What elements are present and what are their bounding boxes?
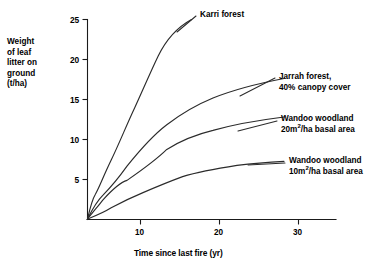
y-tick-label-15: 15 [62, 95, 79, 105]
series-label-jarrah-forest: Jarrah forest, 40% canopy cover [279, 72, 350, 93]
x-tick-label-30: 30 [293, 228, 302, 238]
leader-karri [177, 16, 196, 32]
series-label-wandoo-10-line-2: 10m2/ha basal area [289, 167, 363, 178]
y-tick-label-10: 10 [62, 135, 79, 145]
series-label-karri-forest: Karri forest [200, 10, 244, 21]
series-label-wandoo-20-line-2: 20m2/ha basal area [281, 125, 355, 136]
wandoo-20-units-post: /ha basal area [301, 125, 355, 134]
y-tick-label-25: 25 [62, 15, 79, 25]
x-tick-label-20: 20 [214, 228, 223, 238]
curve-wandoo-20 [88, 117, 285, 219]
series-label-wandoo-20-line-1: Wandoo woodland [281, 114, 355, 125]
y-axis-title-line-1: Weight [7, 37, 65, 48]
x-axis-title: Time since last fire (yr) [134, 248, 223, 258]
figure-container: Weight of leaf litter on ground (t/ha) 2… [0, 0, 382, 272]
y-axis-title-line-4: ground [7, 69, 65, 80]
series-label-wandoo-10-line-1: Wandoo woodland [289, 156, 363, 167]
leader-wandoo-20 [238, 121, 277, 131]
series-label-jarrah-line-1: Jarrah forest, [279, 72, 350, 83]
y-axis-title-line-5: (t/ha) [7, 79, 65, 90]
curve-karri-forest [88, 20, 192, 220]
series-label-jarrah-line-2: 40% canopy cover [279, 83, 350, 94]
y-tick-label-5: 5 [62, 175, 79, 185]
y-axis-title-line-2: of leaf [7, 48, 65, 59]
series-label-wandoo-20: Wandoo woodland 20m2/ha basal area [281, 114, 355, 135]
series-label-wandoo-10: Wandoo woodland 10m2/ha basal area [289, 156, 363, 177]
x-tick-label-10: 10 [135, 228, 144, 238]
wandoo-10-units-post: /ha basal area [309, 167, 363, 176]
series-label-karri-line-1: Karri forest [200, 10, 244, 21]
y-axis-title: Weight of leaf litter on ground (t/ha) [7, 37, 65, 90]
y-tick-label-20: 20 [62, 55, 79, 65]
curve-wandoo-10 [88, 161, 285, 219]
y-axis-title-line-3: litter on [7, 58, 65, 69]
wandoo-10-units-pre: 10m [289, 167, 305, 176]
wandoo-20-units-pre: 20m [281, 125, 297, 134]
